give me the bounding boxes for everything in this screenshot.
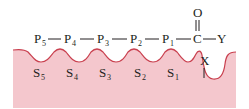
diagram: P 5 P 4 P 3 P 2 P 1 C O Y X S 5 S 4 S 3 … (0, 0, 249, 109)
svg-text:S: S (134, 65, 141, 80)
svg-text:3: 3 (107, 73, 111, 82)
residue-p4: P 4 (64, 31, 76, 48)
svg-text:P: P (97, 31, 104, 46)
svg-text:5: 5 (42, 39, 46, 48)
svg-text:3: 3 (105, 39, 109, 48)
svg-text:5: 5 (41, 73, 45, 82)
svg-text:S: S (33, 65, 40, 80)
svg-text:S: S (167, 65, 174, 80)
svg-text:P: P (162, 31, 169, 46)
svg-text:S: S (99, 65, 106, 80)
catalytic-group-x: X (200, 53, 210, 68)
svg-text:P: P (130, 31, 137, 46)
residue-p1: P 1 (162, 31, 174, 48)
carbonyl-carbon: C (193, 31, 202, 46)
leaving-group-y: Y (217, 31, 227, 46)
svg-text:1: 1 (170, 39, 174, 48)
svg-text:S: S (66, 65, 73, 80)
svg-text:4: 4 (74, 73, 78, 82)
svg-text:P: P (34, 31, 41, 46)
carbonyl-oxygen: O (193, 5, 202, 20)
svg-text:1: 1 (175, 73, 179, 82)
residue-p2: P 2 (130, 31, 142, 48)
svg-text:4: 4 (72, 39, 76, 48)
diagram-canvas: P 5 P 4 P 3 P 2 P 1 C O Y X S 5 S 4 S 3 … (0, 0, 249, 109)
svg-text:2: 2 (142, 73, 146, 82)
svg-text:2: 2 (138, 39, 142, 48)
residue-p5: P 5 (34, 31, 46, 48)
residue-p3: P 3 (97, 31, 109, 48)
svg-text:P: P (64, 31, 71, 46)
